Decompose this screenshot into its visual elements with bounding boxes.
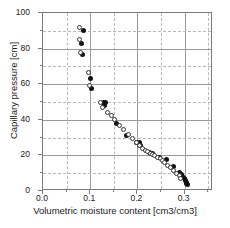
gridline-y-minor — [43, 66, 211, 67]
gridline-y-major — [43, 49, 211, 50]
gridline-y-minor — [43, 31, 211, 32]
gridline-x-major — [137, 13, 138, 189]
data-point-open — [78, 50, 83, 55]
y-tick — [40, 137, 42, 138]
gridline-y-major — [43, 155, 211, 156]
x-tick-label: 0.1 — [83, 193, 95, 203]
y-tick — [40, 172, 42, 173]
x-tick — [160, 190, 161, 192]
y-tick — [38, 119, 42, 120]
data-point-open — [100, 105, 105, 110]
gridline-y-minor — [43, 173, 211, 174]
y-tick-label: 40 — [21, 114, 30, 124]
y-tick — [38, 190, 42, 191]
x-tick — [113, 190, 114, 192]
data-point-filled — [88, 76, 93, 81]
gridline-y-minor — [43, 102, 211, 103]
y-tick — [38, 12, 42, 13]
gridline-x-minor — [208, 13, 209, 189]
y-tick — [38, 154, 42, 155]
y-tick-label: 20 — [21, 149, 30, 159]
y-tick — [40, 65, 42, 66]
gridline-y-major — [43, 84, 211, 85]
y-tick — [40, 30, 42, 31]
gridline-x-major — [185, 13, 186, 189]
gridline-y-major — [43, 120, 211, 121]
y-tick — [40, 101, 42, 102]
chart-figure: 0.00.10.20.3 020406080100 Volumetric moi… — [0, 0, 230, 228]
y-tick — [38, 83, 42, 84]
data-point-open — [86, 70, 91, 75]
x-tick-label: 0.0 — [36, 193, 48, 203]
gridline-x-minor — [114, 13, 115, 189]
y-tick-label: 80 — [21, 43, 30, 53]
gridline-x-major — [90, 13, 91, 189]
data-point-open — [121, 127, 126, 132]
x-tick-label: 0.3 — [178, 193, 190, 203]
plot-area — [42, 12, 212, 190]
gridline-x-minor — [67, 13, 68, 189]
x-tick — [66, 190, 67, 192]
x-tick-label: 0.2 — [131, 193, 143, 203]
y-axis-label: Capillary pressure [cm] — [8, 6, 19, 176]
y-tick-label: 60 — [21, 78, 30, 88]
y-tick — [38, 48, 42, 49]
x-tick — [207, 190, 208, 192]
x-axis-label: Volumetric moisture content [cm3/cm3] — [0, 205, 230, 216]
y-tick-label: 0 — [25, 185, 30, 195]
y-tick-labels: 020406080100 — [0, 12, 38, 190]
data-point-filled — [185, 182, 190, 187]
